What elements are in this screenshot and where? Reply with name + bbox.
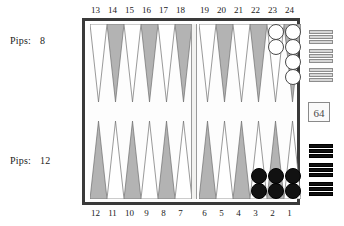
black-borne-off-checker (309, 154, 333, 158)
point-5[interactable] (216, 121, 233, 199)
point-numbers-top: 131415161718192021222324 (82, 4, 300, 17)
point-triangle-6 (199, 121, 216, 199)
point-15[interactable] (124, 24, 141, 102)
point-10[interactable] (124, 121, 141, 199)
point-triangle-16 (141, 24, 158, 102)
point-triangle-13 (90, 24, 107, 102)
black-borne-off-checker (309, 187, 333, 191)
checker-white-point-24[interactable] (285, 24, 301, 40)
point-number-19: 19 (196, 4, 213, 17)
point-4[interactable] (233, 121, 250, 199)
point-14[interactable] (107, 24, 124, 102)
point-triangle-15 (124, 24, 141, 102)
checker-black-point-3[interactable] (251, 168, 267, 184)
point-triangle-18 (175, 24, 192, 102)
black-off-group-2[interactable] (309, 163, 333, 178)
board-half-right (197, 24, 300, 199)
pip-label-top-text: Pips: (10, 35, 31, 46)
checker-black-point-1[interactable] (285, 168, 301, 184)
black-borne-off-checker (309, 149, 333, 153)
checker-black-point-2[interactable] (268, 183, 284, 199)
point-number-9: 9 (138, 207, 155, 220)
black-off-group-3[interactable] (309, 182, 333, 197)
black-borne-off-checker (309, 192, 333, 196)
point-number-2: 2 (264, 207, 281, 220)
white-off-group-2[interactable] (309, 49, 333, 64)
point-number-17: 17 (155, 4, 172, 17)
point-triangle-10 (124, 121, 141, 199)
point-number-10: 10 (121, 207, 138, 220)
point-9[interactable] (141, 121, 158, 199)
white-borne-off-checker (309, 49, 333, 53)
board-surface (88, 24, 294, 199)
point-number-4: 4 (230, 207, 247, 220)
white-borne-off-checker (309, 68, 333, 72)
checker-white-point-23[interactable] (268, 39, 284, 55)
black-borne-off-checker (309, 173, 333, 177)
white-borne-off-checker (309, 59, 333, 63)
pip-label-bottom-text: Pips: (10, 155, 31, 166)
point-number-5: 5 (213, 207, 230, 220)
point-number-16: 16 (138, 4, 155, 17)
pip-value-bottom: 12 (40, 155, 50, 166)
point-number-15: 15 (121, 4, 138, 17)
checker-white-point-24[interactable] (285, 39, 301, 55)
point-triangle-19 (199, 24, 216, 102)
checker-white-point-24[interactable] (285, 69, 301, 85)
point-triangle-20 (216, 24, 233, 102)
point-8[interactable] (158, 121, 175, 199)
point-17[interactable] (158, 24, 175, 102)
black-borne-off-checker (309, 144, 333, 148)
backgammon-board[interactable] (82, 18, 300, 205)
point-number-20: 20 (213, 4, 230, 17)
point-22[interactable] (250, 24, 267, 102)
board-frame (82, 18, 300, 205)
point-number-14: 14 (104, 4, 121, 17)
white-borne-off-checker (309, 73, 333, 77)
point-number-13: 13 (87, 4, 104, 17)
point-triangle-8 (158, 121, 175, 199)
point-20[interactable] (216, 24, 233, 102)
black-off-group-1[interactable] (309, 144, 333, 159)
point-number-7: 7 (172, 207, 189, 220)
white-borne-off-checker (309, 40, 333, 44)
white-off-group-1[interactable] (309, 30, 333, 45)
point-12[interactable] (90, 121, 107, 199)
point-21[interactable] (233, 24, 250, 102)
point-18[interactable] (175, 24, 192, 102)
point-7[interactable] (175, 121, 192, 199)
point-19[interactable] (199, 24, 216, 102)
doubling-cube[interactable]: 64 (308, 102, 330, 122)
point-number-24: 24 (281, 4, 298, 17)
checker-white-point-23[interactable] (268, 24, 284, 40)
point-number-21: 21 (230, 4, 247, 17)
point-13[interactable] (90, 24, 107, 102)
point-11[interactable] (107, 121, 124, 199)
white-borne-off-checker (309, 54, 333, 58)
point-triangle-9 (141, 121, 158, 199)
checker-white-point-24[interactable] (285, 54, 301, 70)
point-number-1: 1 (281, 207, 298, 220)
point-triangle-7 (175, 121, 192, 199)
point-number-3: 3 (247, 207, 264, 220)
point-triangle-17 (158, 24, 175, 102)
checker-black-point-2[interactable] (268, 168, 284, 184)
point-triangle-5 (216, 121, 233, 199)
pip-count-bottom: Pips:12 (10, 155, 80, 166)
point-number-6: 6 (196, 207, 213, 220)
point-triangle-21 (233, 24, 250, 102)
point-number-11: 11 (104, 207, 121, 220)
point-triangle-22 (250, 24, 267, 102)
white-borne-off-checker (309, 30, 333, 34)
pip-count-top: Pips:8 (10, 35, 80, 46)
checker-black-point-3[interactable] (251, 183, 267, 199)
white-off-group-3[interactable] (309, 68, 333, 83)
checker-black-point-1[interactable] (285, 183, 301, 199)
black-borne-off-checker (309, 163, 333, 167)
point-16[interactable] (141, 24, 158, 102)
point-number-18: 18 (172, 4, 189, 17)
pip-value-top: 8 (40, 35, 45, 46)
point-6[interactable] (199, 121, 216, 199)
point-triangle-4 (233, 121, 250, 199)
point-number-8: 8 (155, 207, 172, 220)
